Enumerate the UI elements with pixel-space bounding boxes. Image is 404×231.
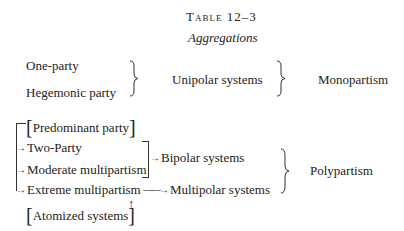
bracket-line <box>148 141 149 178</box>
right-brace-icon <box>279 148 291 194</box>
bipolar-systems: →Bipolar systems <box>150 151 244 166</box>
item-one-party: One-party <box>26 59 79 73</box>
connector-line <box>16 123 26 124</box>
two-party: →Two-Party <box>16 141 82 156</box>
unipolar-systems: Unipolar systems <box>172 73 263 87</box>
monopartism: Monopartism <box>318 73 388 87</box>
arrow-right-icon: → <box>16 184 26 195</box>
right-brace-icon <box>128 60 140 97</box>
arrow-right-icon: → <box>16 142 26 153</box>
extreme-multipartism: →Extreme multipartism <box>16 183 141 198</box>
polypartism: Polypartism <box>310 164 373 178</box>
table-subtitle: Aggregations <box>188 31 258 45</box>
connector-line <box>16 123 17 191</box>
bracket-line <box>142 177 148 178</box>
bracket-line <box>142 141 148 142</box>
table-title: Table 12–3 <box>186 10 257 24</box>
moderate-multipartism: →Moderate multipartism <box>16 163 147 178</box>
item-hegemonic-party: Hegemonic party <box>26 86 116 100</box>
long-arrow-right-icon: ——→ <box>143 184 167 195</box>
atomized-systems: [Atomized systems] <box>26 206 135 223</box>
arrow-right-icon: → <box>16 164 26 175</box>
arrow-up-icon: ↑ <box>128 197 134 211</box>
arrow-right-icon: → <box>150 152 160 163</box>
predominant-party: [Predominant party] <box>26 118 136 135</box>
right-brace-icon <box>275 60 287 97</box>
multipolar-systems: ——→Multipolar systems <box>143 183 270 198</box>
